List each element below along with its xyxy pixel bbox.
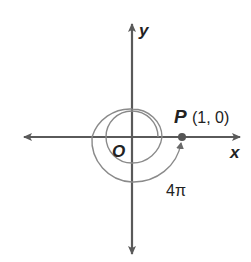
x-axis-label: x xyxy=(229,143,241,162)
rotation-spiral xyxy=(92,109,181,182)
origin-label: O xyxy=(112,142,125,161)
rotation-diagram: y x O P (1, 0) 4π xyxy=(0,0,251,262)
angle-label: 4π xyxy=(166,182,186,199)
point-p-coords: (1, 0) xyxy=(192,109,229,126)
y-axis-label: y xyxy=(138,21,150,40)
point-p-marker xyxy=(178,133,186,141)
point-p-label: P xyxy=(174,106,187,127)
